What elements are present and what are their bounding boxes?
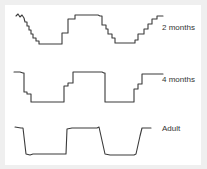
series-label-4-months: 4 months: [162, 76, 195, 84]
series-label-adult: Adult: [162, 125, 180, 133]
series-label-2-months: 2 months: [162, 24, 195, 32]
trace-2-months: [16, 14, 163, 44]
trace-4-months: [14, 72, 163, 102]
trace-adult: [15, 127, 151, 155]
